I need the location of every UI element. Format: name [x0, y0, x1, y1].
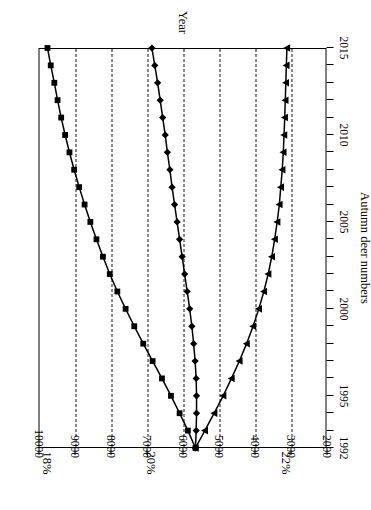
x-axis-tick	[326, 47, 333, 48]
data-point-marker	[188, 323, 195, 330]
data-point-marker	[192, 410, 199, 417]
x-axis-tick	[326, 238, 333, 239]
data-point-marker	[114, 289, 120, 295]
x-axis-tick	[326, 151, 333, 152]
series-line	[195, 48, 286, 448]
data-point-marker	[62, 132, 68, 138]
data-point-marker	[173, 218, 180, 225]
data-point-marker	[76, 184, 82, 190]
data-point-marker	[190, 340, 197, 347]
data-point-marker	[161, 131, 168, 138]
data-point-marker	[181, 270, 188, 277]
x-axis-tick	[326, 204, 333, 205]
x-axis-tick	[326, 447, 333, 448]
series-annotation-20pct: 20%	[144, 448, 157, 478]
y-axis-tick-label: 2000	[320, 406, 332, 458]
data-point-marker	[44, 45, 50, 51]
x-axis-tick	[326, 221, 333, 222]
x-axis-tick	[326, 325, 333, 326]
x-axis-tick	[326, 186, 333, 187]
data-point-marker	[151, 62, 158, 69]
x-axis-tick	[326, 273, 333, 274]
series-18pct	[44, 45, 198, 451]
series-line	[151, 48, 196, 448]
chart-canvas: 2000300040005000600070008000900010000 19…	[0, 0, 371, 510]
x-axis-tick	[326, 99, 333, 100]
data-point-marker	[87, 219, 93, 225]
x-axis-tick	[326, 308, 333, 309]
x-axis-tick	[326, 134, 333, 135]
y-axis-tick-label: 9000	[68, 406, 80, 458]
x-axis-tick-label: 2010	[337, 113, 349, 157]
data-point-marker	[154, 79, 161, 86]
x-axis-title: Year	[174, 11, 189, 34]
data-point-marker	[106, 271, 112, 277]
x-axis-tick	[326, 377, 333, 378]
x-axis-tick	[326, 82, 333, 83]
data-point-marker	[168, 184, 175, 191]
x-axis-tick	[326, 117, 333, 118]
data-point-marker	[191, 357, 198, 364]
data-point-marker	[170, 201, 177, 208]
x-axis-tick	[326, 412, 333, 413]
data-point-marker	[148, 44, 155, 51]
data-point-marker	[166, 166, 173, 173]
data-point-marker	[66, 149, 72, 155]
data-point-marker	[54, 97, 60, 103]
data-point-marker	[183, 288, 190, 295]
data-point-marker	[81, 202, 87, 208]
x-axis-tick	[326, 395, 333, 396]
data-point-marker	[159, 114, 166, 121]
data-point-marker	[93, 236, 99, 242]
data-point-marker	[71, 167, 77, 173]
series-22pct	[191, 44, 289, 452]
data-point-marker	[192, 392, 199, 399]
data-point-marker	[156, 97, 163, 104]
data-point-marker	[175, 236, 182, 243]
x-axis-tick	[326, 256, 333, 257]
rotated-chart-container: 2000300040005000600070008000900010000 19…	[0, 0, 371, 510]
data-point-marker	[186, 305, 193, 312]
x-axis-tick-label: 2015	[337, 26, 349, 70]
data-point-marker	[131, 323, 137, 329]
series-annotation-18pct: 18%	[40, 448, 53, 478]
data-point-marker	[159, 376, 165, 382]
x-axis-tick	[326, 64, 333, 65]
data-point-marker	[47, 62, 53, 68]
data-point-marker	[163, 149, 170, 156]
x-axis-tick	[326, 343, 333, 344]
data-series-layer	[38, 48, 326, 448]
y-axis-tick-label: 6000	[176, 406, 188, 458]
data-point-marker	[192, 427, 199, 434]
data-point-marker	[168, 393, 174, 399]
data-point-marker	[149, 358, 155, 364]
x-axis-tick	[326, 169, 333, 170]
x-axis-tick	[326, 290, 333, 291]
x-axis-tick-label: 2000	[337, 287, 349, 331]
data-point-marker	[140, 341, 146, 347]
series-20pct	[148, 44, 200, 451]
y-axis-tick-label: 5000	[212, 406, 224, 458]
data-point-marker	[192, 375, 199, 382]
series-annotation-22pct: 22%	[279, 448, 292, 478]
chart-figure: 2000300040005000600070008000900010000 19…	[0, 0, 371, 510]
y-axis-tick-label: 8000	[104, 406, 116, 458]
data-point-marker	[51, 80, 57, 86]
series-line	[47, 48, 195, 448]
x-axis-tick-label: 1992	[337, 426, 349, 470]
data-point-marker	[100, 254, 106, 260]
data-point-marker	[122, 306, 128, 312]
data-point-marker	[58, 115, 64, 121]
y-axis-tick-label: 4000	[248, 406, 260, 458]
data-point-marker	[178, 253, 185, 260]
x-axis-tick-label: 2005	[337, 200, 349, 244]
x-axis-tick	[326, 430, 333, 431]
y-axis-title: Autumn deer numbers	[356, 178, 371, 318]
x-axis-tick	[326, 360, 333, 361]
x-axis-tick-label: 1995	[337, 374, 349, 418]
